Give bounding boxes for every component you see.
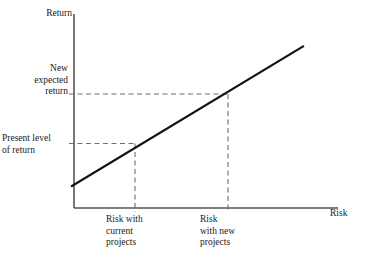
x-axis-label: Risk bbox=[330, 208, 364, 220]
risk-return-chart bbox=[0, 0, 366, 262]
y-tick-label-new-expected-return: New expected return bbox=[2, 63, 68, 98]
risk-return-line bbox=[72, 47, 303, 187]
x-tick-label-risk-with-current-projects: Risk with current projects bbox=[106, 214, 182, 249]
x-tick-label-risk-with-new-projects: Risk with new projects bbox=[200, 214, 276, 249]
y-axis-label: Return bbox=[10, 8, 72, 20]
figure-canvas: Return Risk New expected return Present … bbox=[0, 0, 366, 262]
y-tick-label-present-level-of-return: Present level of return bbox=[0, 133, 70, 156]
